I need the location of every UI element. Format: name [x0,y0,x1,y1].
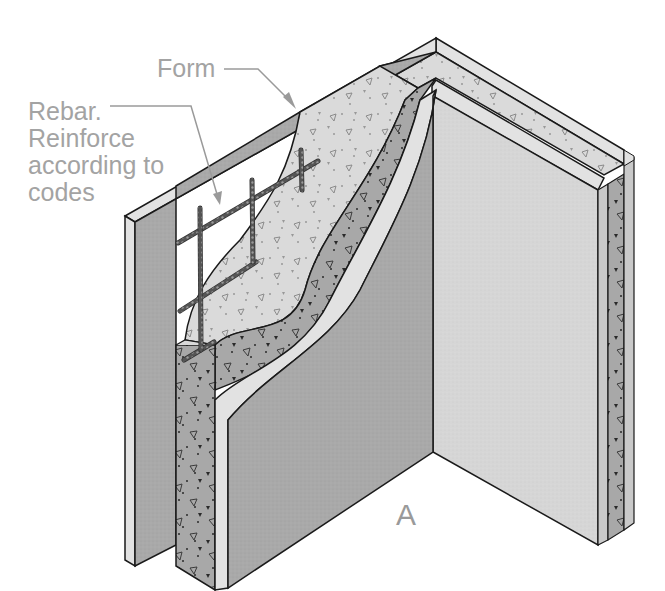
rebar-label: Rebar. Reinforce according to codes [28,98,164,206]
view-label: A [396,501,416,528]
concrete-wall-form-diagram [0,0,665,591]
rebar-label-line-3: according to [28,152,164,179]
rebar-label-line-1: Rebar. [28,98,164,125]
form-label: Form [157,55,215,82]
rebar-label-line-4: codes [28,179,164,206]
leader-form [224,69,296,109]
rebar-label-line-2: Reinforce [28,125,164,152]
